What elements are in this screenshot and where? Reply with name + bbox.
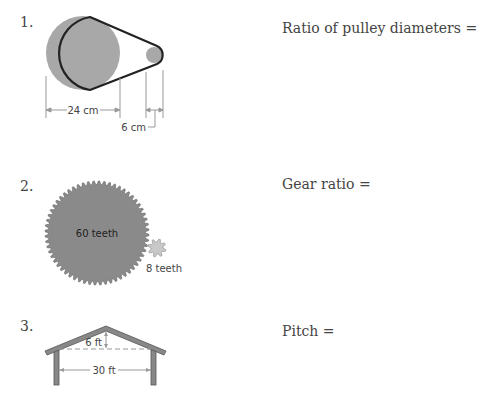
small-diameter-label: 6 cm: [121, 122, 146, 133]
gear-figure: 60 teeth 8 teeth: [45, 181, 182, 285]
large-pulley: [46, 16, 120, 90]
large-gear-label: 60 teeth: [76, 228, 118, 239]
small-gear-label: 8 teeth: [146, 263, 182, 274]
small-gear: [148, 239, 166, 257]
right-wall: [151, 349, 156, 385]
roof-figure: 6 ft 30 ft: [45, 326, 166, 385]
large-diameter-label: 24 cm: [67, 105, 98, 116]
left-wall: [54, 349, 59, 385]
pulley-figure: 24 cm 6 cm: [46, 16, 163, 133]
small-pulley: [146, 47, 162, 63]
span-label: 30 ft: [92, 365, 115, 376]
rise-label: 6 ft: [85, 337, 102, 348]
